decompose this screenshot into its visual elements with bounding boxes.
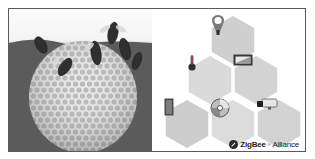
door-sensor-icon bbox=[164, 98, 210, 150]
logo-brand: ZigBee bbox=[240, 140, 265, 149]
logo-suffix: Alliance bbox=[273, 140, 299, 149]
logo-trademark: ® bbox=[268, 142, 271, 147]
honeycomb-bees-photo bbox=[9, 9, 152, 151]
honeycomb-illustration bbox=[9, 9, 152, 151]
zigbee-logo-icon bbox=[229, 140, 238, 149]
zigbee-alliance-logo: ZigBee® Alliance bbox=[229, 140, 299, 149]
hexagon-bottom-left bbox=[164, 98, 210, 150]
zigbee-device-hexagons: ZigBee® Alliance bbox=[152, 9, 305, 151]
